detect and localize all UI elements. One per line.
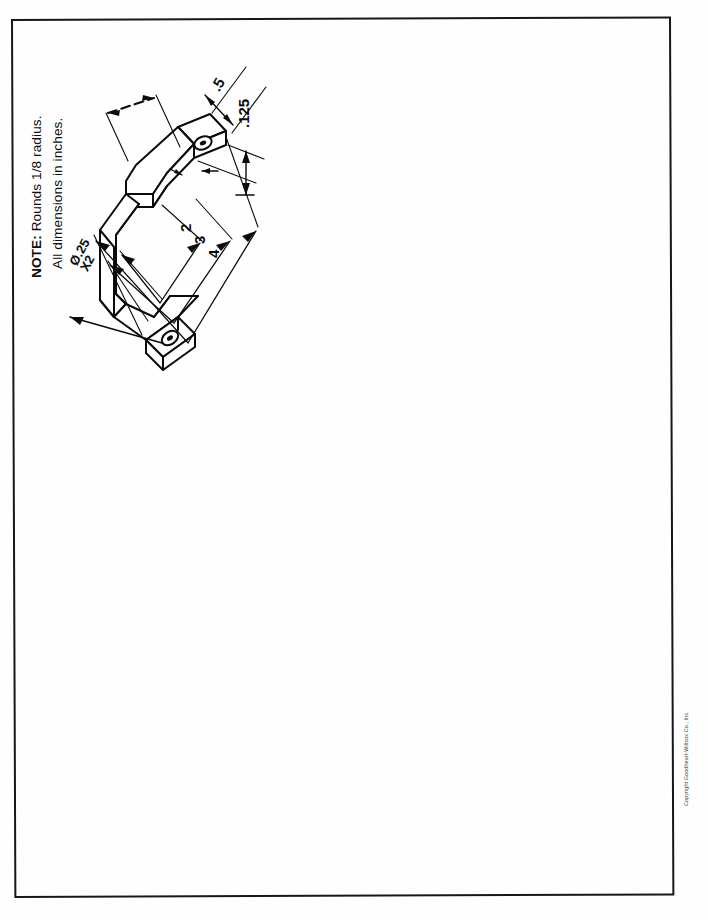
dimension-label-overall-length: 4 (206, 250, 221, 258)
arrow-thickness-right (202, 168, 210, 174)
dimension-label-thickness: .125 (236, 99, 251, 128)
dim-line-2 (122, 243, 200, 303)
ext-line-3-a (196, 199, 232, 239)
ext-line-top-left (106, 113, 128, 161)
drawing-sheet: NOTE: Rounds 1/8 radius. All dimensions … (0, 0, 708, 920)
copyright-notice: Copyright Goodheart-Willcox Co., Inc. (683, 711, 689, 806)
dim-line-top (108, 98, 154, 113)
note-prefix: NOTE: (29, 235, 44, 278)
note-block: NOTE: Rounds 1/8 radius. All dimensions … (26, 0, 72, 28)
arrow-hole-callout (70, 317, 84, 325)
arrow-4-a (242, 231, 256, 242)
dimension-label-mid-depth: 3 (192, 236, 207, 244)
isometric-bracket-drawing (50, 55, 290, 385)
note-line-one: NOTE: Rounds 1/8 radius. (26, 28, 47, 278)
arrow-2-a (187, 243, 200, 253)
dimension-label-inner-depth: 2 (178, 224, 193, 232)
note-line-one-rest: Rounds 1/8 radius. (29, 115, 44, 235)
